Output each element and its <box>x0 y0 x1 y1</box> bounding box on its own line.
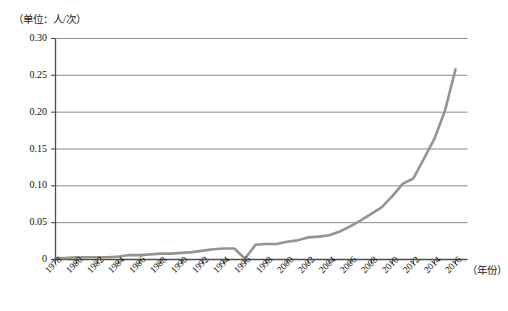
y-axis-tick-marks <box>51 39 56 260</box>
y-tick-label: 0.10 <box>13 179 47 190</box>
y-tick-label: 0.20 <box>13 106 47 117</box>
y-tick-label: 0.05 <box>13 216 47 227</box>
y-tick-label: 0.25 <box>13 69 47 80</box>
gridlines <box>56 39 468 223</box>
x-axis-name: （年份） <box>467 262 507 277</box>
y-tick-label: 0.15 <box>13 143 47 154</box>
chart-figure: （单位：人/次） （年份） 0.300.250.200.150.100.050 … <box>0 0 508 311</box>
y-tick-label: 0 <box>13 253 47 264</box>
data-series-line <box>56 69 456 258</box>
y-tick-label: 0.30 <box>13 32 47 43</box>
unit-label: （单位：人/次） <box>13 11 86 26</box>
